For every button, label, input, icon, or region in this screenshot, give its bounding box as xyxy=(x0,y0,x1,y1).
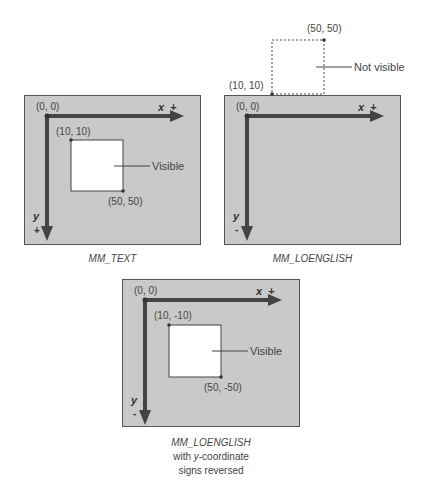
mm-loenglish-reversed-graphics xyxy=(0,0,426,498)
x-axis-label: x + xyxy=(256,285,275,297)
caption-line-2: with y-coordinate xyxy=(122,451,300,462)
rect-top-left-label: (10, -10) xyxy=(154,310,192,321)
mm-loenglish-reversed-caption: MM_LOENGLISH xyxy=(122,437,300,448)
caption-text: with xyxy=(173,451,194,462)
x-sign: + xyxy=(268,285,274,297)
y-sign: - xyxy=(133,408,136,419)
caption-line-3: signs reversed xyxy=(122,465,300,476)
origin-label: (0, 0) xyxy=(134,285,157,296)
y-axis-label: y xyxy=(131,394,137,406)
caption-text: -coordinate xyxy=(199,451,249,462)
x-label: x xyxy=(256,285,262,297)
callout-label: Visible xyxy=(250,345,282,357)
rect-bottom-right-label: (50, -50) xyxy=(204,382,242,393)
